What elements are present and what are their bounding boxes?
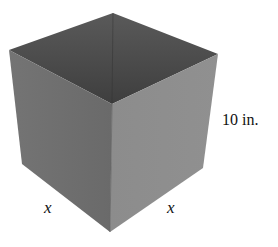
left-base-label: x bbox=[43, 198, 52, 217]
right-base-label: x bbox=[166, 198, 175, 217]
height-label: 10 in. bbox=[222, 111, 258, 128]
open-box-diagram: 10 in. x x bbox=[0, 0, 278, 247]
